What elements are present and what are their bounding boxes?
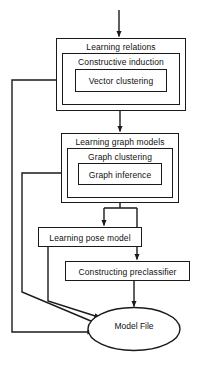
node-learning-graph-models-label: Learning graph models — [62, 137, 178, 147]
node-constructive-induction-label: Constructive induction — [63, 57, 179, 67]
node-model-file-label: Model File — [88, 321, 180, 331]
node-constructing-preclassifier-label: Constructing preclassifier — [66, 267, 189, 277]
node-vector-clustering: Vector clustering — [75, 69, 167, 92]
edge-graph-models-split-bus — [104, 203, 137, 208]
node-graph-inference-label: Graph inference — [79, 170, 161, 180]
node-learning-relations-label: Learning relations — [57, 42, 185, 52]
node-vector-clustering-label: Vector clustering — [76, 76, 166, 86]
node-constructing-preclassifier: Constructing preclassifier — [65, 261, 190, 281]
node-graph-clustering-label: Graph clustering — [68, 152, 172, 162]
edge-constructive-induction-feedback-to-model-file — [12, 80, 93, 332]
node-learning-pose-model-label: Learning pose model — [39, 233, 141, 243]
node-graph-inference: Graph inference — [78, 163, 162, 185]
node-learning-pose-model: Learning pose model — [38, 227, 142, 247]
flowchart-diagram: Learning relations Constructive inductio… — [0, 0, 199, 368]
